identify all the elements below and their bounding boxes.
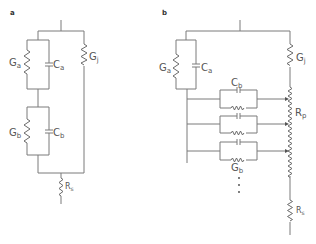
- label-rs: Rs: [296, 206, 305, 216]
- top-wire-b: [186, 20, 290, 31]
- label-gb: Gb: [231, 162, 244, 175]
- resistor-icon: [231, 106, 244, 110]
- capacitor-icon: [220, 139, 257, 145]
- resistor-ga-icon: [24, 50, 30, 74]
- ellipsis-dots: [238, 177, 240, 193]
- rc-branch-2: [187, 113, 289, 135]
- top-wire-a: [38, 20, 84, 31]
- capacitor-ca-icon: [45, 63, 53, 66]
- resistor-rs-icon: [288, 200, 293, 221]
- label-cb: Cb: [53, 127, 65, 140]
- ga-ca-parallel-b: Ga Ca: [159, 40, 212, 89]
- label-gb: Gb: [9, 127, 22, 140]
- ga-ca-parallel-a: Ga Ca: [9, 40, 64, 89]
- label-rp: Rp: [295, 107, 307, 120]
- resistor-icon: [231, 131, 244, 135]
- label-gj: Gj: [89, 51, 99, 64]
- capacitor-cb-icon: [45, 130, 53, 133]
- resistor-rs-icon: [59, 178, 63, 196]
- resistor-gj-icon: [287, 44, 293, 66]
- panel-b: b Ga Ca Cb: [159, 9, 307, 235]
- panel-a: a Ga Ca Gb Cb: [9, 9, 99, 204]
- label-ca: Ca: [53, 59, 64, 72]
- circuit-diagram-figure: a Ga Ca Gb Cb: [0, 0, 316, 244]
- label-rs: Rs: [65, 182, 74, 192]
- capacitor-ca-icon: [192, 64, 200, 67]
- gj-branch-a: Gj: [81, 31, 99, 173]
- bottom-wire-a: [38, 155, 84, 173]
- resistor-rp-distributed-icon: [288, 87, 292, 178]
- resistor-gj-icon: [81, 44, 87, 65]
- panel-a-label: a: [10, 9, 15, 17]
- gb-cb-parallel-a: Gb Cb: [9, 107, 65, 155]
- label-ga: Ga: [159, 62, 171, 75]
- resistor-gb-icon: [24, 119, 30, 143]
- capacitor-icon: [220, 113, 257, 119]
- rc-branch-1: [187, 87, 289, 110]
- right-chain-b: Gj Rp Rs: [287, 31, 307, 235]
- label-ca: Ca: [201, 62, 212, 75]
- panel-b-label: b: [162, 9, 167, 17]
- resistor-ga-icon: [173, 54, 179, 78]
- rc-branch-3: [187, 139, 289, 162]
- rs-a: Rs: [59, 173, 74, 204]
- label-ga: Ga: [9, 57, 21, 70]
- label-gj: Gj: [296, 52, 306, 65]
